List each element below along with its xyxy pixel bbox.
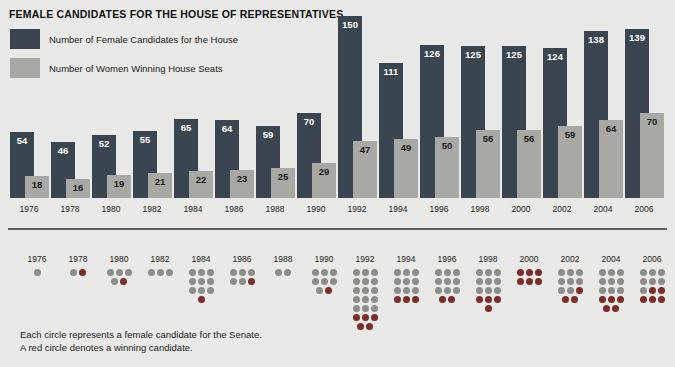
senate-dot-row — [588, 296, 634, 305]
senate-year-group: 1984 — [178, 252, 224, 305]
senate-dot-winner-icon — [517, 278, 524, 285]
senate-dot-candidate-icon — [166, 269, 173, 276]
senate-year-label: 1980 — [96, 252, 142, 266]
bar-value-candidates: 64 — [215, 123, 239, 134]
senate-year-label: 1996 — [424, 252, 470, 266]
senate-dot-candidate-icon — [567, 287, 574, 294]
senate-dot-winner-icon — [325, 287, 332, 294]
senate-dot-candidate-icon — [321, 278, 328, 285]
bar-year-label: 1986 — [212, 204, 256, 214]
bar-value-winners: 70 — [640, 116, 664, 127]
senate-year-label: 2004 — [588, 252, 634, 266]
house-panel: FEMALE CANDIDATES FOR THE HOUSE OF REPRE… — [0, 0, 675, 224]
senate-dot-row — [629, 269, 675, 278]
senate-dot-candidate-icon — [599, 287, 606, 294]
senate-dot-candidate-icon — [316, 287, 323, 294]
senate-dot-winner-icon — [608, 296, 615, 303]
senate-dot-winner-icon — [494, 296, 501, 303]
senate-dot-candidate-icon — [239, 278, 246, 285]
senate-dot-winner-icon — [439, 296, 446, 303]
senate-year-group: 1996 — [424, 252, 470, 305]
senate-dot-row — [424, 269, 470, 278]
senate-dot-candidate-icon — [412, 278, 419, 285]
bar-winners: 56 — [517, 130, 541, 198]
senate-dot-winner-icon — [612, 305, 619, 312]
senate-dot-row — [178, 269, 224, 278]
senate-dot-winner-icon — [79, 269, 86, 276]
bar-winners: 50 — [435, 137, 459, 198]
senate-dot-candidate-icon — [371, 305, 378, 312]
senate-dot-winner-icon — [576, 287, 583, 294]
bar-winners: 29 — [312, 163, 336, 198]
bar-year-label: 1988 — [253, 204, 297, 214]
senate-dot-candidate-icon — [608, 287, 615, 294]
senate-dot-row — [629, 278, 675, 287]
senate-dot-candidate-icon — [617, 278, 624, 285]
senate-dot-candidate-icon — [362, 305, 369, 312]
senate-dot-row — [506, 278, 552, 287]
senate-dot-candidate-icon — [608, 278, 615, 285]
senate-year-label: 1976 — [14, 252, 60, 266]
senate-dot-candidate-icon — [412, 287, 419, 294]
senate-dot-winner-icon — [649, 296, 656, 303]
senate-dot-row — [301, 287, 347, 296]
senate-dot-row — [14, 269, 60, 278]
bar-value-winners: 50 — [435, 140, 459, 151]
senate-dot-candidate-icon — [362, 287, 369, 294]
senate-dot-row — [547, 296, 593, 305]
senate-dot-candidate-icon — [476, 278, 483, 285]
senate-dot-row — [588, 269, 634, 278]
senate-dot-candidate-icon — [207, 269, 214, 276]
senate-dot-winner-icon — [617, 296, 624, 303]
bar-value-winners: 18 — [25, 179, 49, 190]
senate-dot-candidate-icon — [485, 278, 492, 285]
senate-dot-winner-icon — [448, 296, 455, 303]
senate-dot-candidate-icon — [353, 305, 360, 312]
senate-dot-candidate-icon — [567, 269, 574, 276]
senate-dot-winner-icon — [535, 269, 542, 276]
senate-dot-candidate-icon — [353, 269, 360, 276]
senate-dot-row — [588, 287, 634, 296]
senate-year-group: 1998 — [465, 252, 511, 314]
senate-year-label: 2002 — [547, 252, 593, 266]
senate-dot-row — [342, 314, 388, 323]
senate-year-group: 1990 — [301, 252, 347, 296]
bar-value-candidates: 124 — [543, 51, 567, 62]
senate-dot-row — [465, 296, 511, 305]
senate-dot-winner-icon — [562, 296, 569, 303]
senate-year-label: 1998 — [465, 252, 511, 266]
senate-dot-candidate-icon — [435, 287, 442, 294]
senate-dot-row — [506, 269, 552, 278]
senate-year-label: 1984 — [178, 252, 224, 266]
senate-dot-rows — [383, 266, 429, 305]
senate-year-group: 2000 — [506, 252, 552, 287]
senate-dot-rows — [137, 266, 183, 278]
senate-dot-candidate-icon — [453, 269, 460, 276]
senate-dot-candidate-icon — [485, 287, 492, 294]
senate-dot-row — [547, 287, 593, 296]
senate-dot-candidate-icon — [435, 278, 442, 285]
senate-dot-row — [383, 278, 429, 287]
senate-dot-rows — [178, 266, 224, 305]
bar-value-candidates: 52 — [92, 138, 116, 149]
senate-dot-row — [383, 296, 429, 305]
bar-value-winners: 47 — [353, 144, 377, 155]
senate-dot-winner-icon — [485, 296, 492, 303]
senate-dot-row — [96, 269, 142, 278]
senate-dot-candidate-icon — [371, 296, 378, 303]
senate-dot-winner-icon — [526, 269, 533, 276]
bar-winners: 64 — [599, 120, 623, 198]
senate-dot-row — [465, 287, 511, 296]
bar-year-label: 1984 — [171, 204, 215, 214]
senate-dot-row — [96, 278, 142, 287]
senate-dot-row — [629, 296, 675, 305]
senate-dot-candidate-icon — [658, 278, 665, 285]
bar-value-winners: 29 — [312, 166, 336, 177]
senate-dot-candidate-icon — [353, 287, 360, 294]
senate-dot-candidate-icon — [494, 278, 501, 285]
senate-dot-candidate-icon — [494, 269, 501, 276]
bar-year-label: 1994 — [376, 204, 420, 214]
senate-dot-candidate-icon — [658, 269, 665, 276]
bar-winners: 22 — [189, 171, 213, 198]
senate-dot-winner-icon — [526, 278, 533, 285]
